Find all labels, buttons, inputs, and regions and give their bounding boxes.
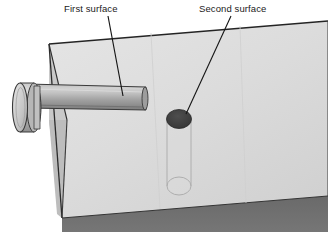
label-second-surface: Second surface [199, 3, 266, 14]
entry-hole [167, 110, 192, 129]
probe-collar [34, 86, 40, 129]
label-first-surface: First surface [64, 3, 118, 14]
figure-container: First surface Second surface [0, 0, 328, 232]
hidden-cylinder-body [167, 119, 191, 195]
technical-illustration: First surface Second surface [0, 0, 328, 232]
probe-shaft-end-cap [142, 87, 148, 110]
hidden-cylinder-group [167, 119, 191, 195]
